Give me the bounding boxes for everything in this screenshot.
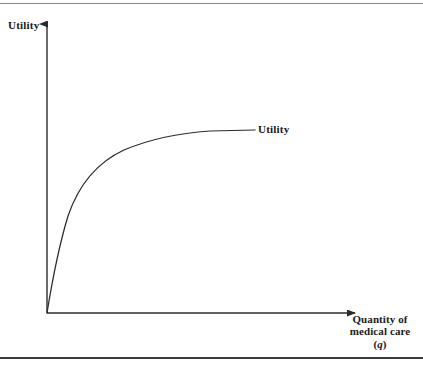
- utility-curve-label: Utility: [258, 123, 289, 135]
- figure-container: Utility Utility Quantity of medical care…: [0, 0, 423, 368]
- bottom-divider-rule: [0, 357, 423, 359]
- x-axis-variable-line: (q): [338, 338, 422, 350]
- paren-close: ): [383, 338, 387, 350]
- y-axis-label: Utility: [8, 19, 39, 31]
- utility-curve: [47, 130, 255, 313]
- x-axis-label-line2: medical care: [338, 325, 422, 337]
- x-axis-label-line1: Quantity of: [338, 313, 422, 325]
- x-axis-label: Quantity of medical care (q): [338, 313, 422, 350]
